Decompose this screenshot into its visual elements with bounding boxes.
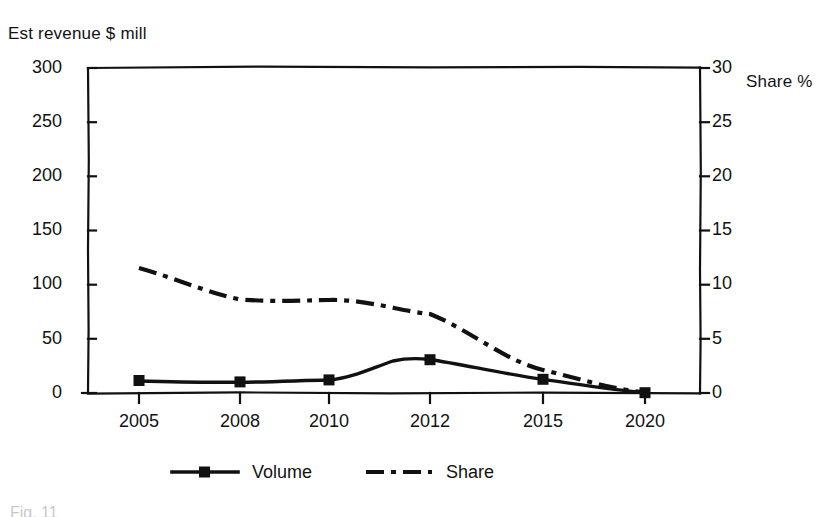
axis-frame bbox=[88, 67, 701, 394]
left-tick-label-50: 50 bbox=[10, 328, 62, 349]
left-tick-label-250: 250 bbox=[10, 111, 62, 132]
x-tick-label-2012: 2012 bbox=[395, 411, 465, 432]
left-tick-label-200: 200 bbox=[10, 165, 62, 186]
left-tick-label-0: 0 bbox=[10, 382, 62, 403]
x-tick-label-2010: 2010 bbox=[294, 411, 364, 432]
left-tick-label-150: 150 bbox=[10, 219, 62, 240]
right-tick-label-30: 30 bbox=[712, 57, 764, 78]
legend-swatch-solid-square-icon bbox=[170, 463, 240, 481]
right-tick-label-15: 15 bbox=[712, 219, 764, 240]
series-line-share bbox=[139, 268, 645, 392]
legend-item-volume[interactable]: Volume bbox=[170, 462, 312, 483]
right-tick-label-20: 20 bbox=[712, 165, 764, 186]
right-tick-label-10: 10 bbox=[712, 273, 764, 294]
x-tick-label-2008: 2008 bbox=[205, 411, 275, 432]
right-tick-label-5: 5 bbox=[712, 328, 764, 349]
x-tick-label-2005: 2005 bbox=[104, 411, 174, 432]
cropped-caption: Fig. 11 bbox=[10, 505, 130, 517]
left-tick-label-100: 100 bbox=[10, 273, 62, 294]
chart-figure: Est revenue $ mill Share % bbox=[0, 0, 838, 517]
legend-swatch-dash-dot-icon bbox=[364, 463, 434, 481]
chart-legend: Volume Share bbox=[170, 455, 650, 489]
legend-label-volume: Volume bbox=[252, 462, 312, 483]
x-tick-label-2015: 2015 bbox=[508, 411, 578, 432]
x-tick-label-2020: 2020 bbox=[610, 411, 680, 432]
x-axis-ticks bbox=[139, 393, 645, 403]
legend-label-share: Share bbox=[446, 462, 494, 483]
left-tick-label-300: 300 bbox=[10, 57, 62, 78]
right-tick-label-25: 25 bbox=[712, 111, 764, 132]
legend-item-share[interactable]: Share bbox=[364, 462, 494, 483]
right-tick-label-0: 0 bbox=[712, 382, 764, 403]
